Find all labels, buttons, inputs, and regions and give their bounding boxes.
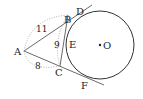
length-ac: 8: [35, 61, 41, 71]
length-bc: 9: [54, 40, 60, 50]
length-ab: 11: [36, 24, 47, 34]
label-d: D: [76, 6, 84, 17]
label-b: B: [64, 14, 71, 25]
label-a: A: [13, 46, 22, 57]
geometry-figure: A B C D E F O 11 9 8: [0, 0, 143, 99]
center-dot-o: [99, 44, 101, 46]
label-f: F: [81, 80, 88, 91]
diagram-canvas: A B C D E F O 11 9 8: [0, 0, 143, 99]
label-c: C: [55, 67, 63, 78]
label-e: E: [69, 39, 76, 50]
label-o: O: [103, 40, 111, 51]
